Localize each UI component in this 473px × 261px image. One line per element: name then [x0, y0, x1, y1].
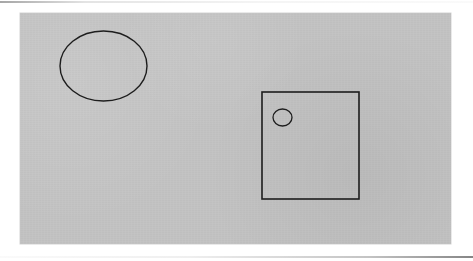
scan-line-bottom	[0, 256, 473, 258]
scan-line-top	[0, 1, 473, 3]
large-ellipse-shape	[60, 31, 147, 101]
shape-layer	[20, 13, 451, 244]
figure-page	[0, 0, 473, 261]
small-circle-shape	[273, 109, 292, 126]
drawing-canvas	[20, 13, 451, 244]
main-rectangle-shape	[262, 92, 359, 199]
